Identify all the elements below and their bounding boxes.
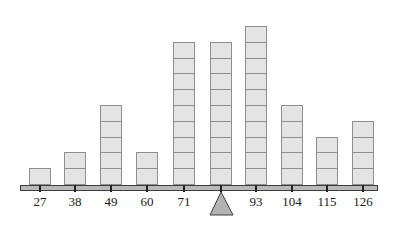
block xyxy=(245,26,267,43)
block-stack-71 xyxy=(173,42,195,185)
fulcrum-triangle-icon xyxy=(209,191,235,216)
block xyxy=(245,152,267,169)
block xyxy=(316,152,338,169)
block-stack-27 xyxy=(29,168,51,185)
tick-mark xyxy=(110,185,112,192)
block xyxy=(100,121,122,138)
block-stack-104 xyxy=(281,105,303,185)
block xyxy=(210,89,232,106)
block xyxy=(173,58,195,75)
block xyxy=(245,73,267,90)
tick-mark xyxy=(146,185,148,192)
tick-mark xyxy=(326,185,328,192)
block-stack-60 xyxy=(136,152,158,185)
block xyxy=(100,168,122,185)
block-stack-115 xyxy=(316,137,338,185)
block xyxy=(352,168,374,185)
block-stack-126 xyxy=(352,121,374,185)
block xyxy=(245,105,267,122)
tick-label: 60 xyxy=(127,194,167,210)
block xyxy=(29,168,51,185)
block xyxy=(245,121,267,138)
tick-mark xyxy=(183,185,185,192)
tick-mark xyxy=(39,185,41,192)
block xyxy=(352,152,374,169)
tick-mark xyxy=(74,185,76,192)
block xyxy=(136,168,158,185)
block xyxy=(100,137,122,154)
block xyxy=(281,168,303,185)
block xyxy=(64,168,86,185)
block xyxy=(281,152,303,169)
block xyxy=(210,58,232,75)
balance-dot-plot: 273849607193104115126 xyxy=(0,0,395,228)
block xyxy=(281,121,303,138)
tick-label: 115 xyxy=(307,194,347,210)
block xyxy=(245,42,267,59)
block xyxy=(210,121,232,138)
tick-label: 27 xyxy=(20,194,60,210)
block xyxy=(136,152,158,169)
block xyxy=(245,137,267,154)
block xyxy=(210,168,232,185)
block xyxy=(173,152,195,169)
block xyxy=(173,42,195,59)
block-stack-49 xyxy=(100,105,122,185)
block xyxy=(245,168,267,185)
block xyxy=(245,58,267,75)
block-stack-82 xyxy=(210,42,232,185)
tick-label: 49 xyxy=(91,194,131,210)
block xyxy=(64,152,86,169)
block xyxy=(210,105,232,122)
tick-mark xyxy=(255,185,257,192)
block xyxy=(245,89,267,106)
block-stack-93 xyxy=(245,26,267,185)
block xyxy=(210,42,232,59)
block xyxy=(173,137,195,154)
block xyxy=(281,137,303,154)
tick-label: 38 xyxy=(55,194,95,210)
tick-mark xyxy=(291,185,293,192)
block xyxy=(316,137,338,154)
block xyxy=(100,152,122,169)
block xyxy=(100,105,122,122)
block xyxy=(173,73,195,90)
block xyxy=(281,105,303,122)
block xyxy=(352,137,374,154)
block xyxy=(173,89,195,106)
tick-label: 104 xyxy=(272,194,312,210)
block xyxy=(173,105,195,122)
tick-label: 93 xyxy=(236,194,276,210)
block xyxy=(210,73,232,90)
tick-mark xyxy=(362,185,364,192)
block xyxy=(210,137,232,154)
block xyxy=(173,121,195,138)
block xyxy=(316,168,338,185)
block-stack-38 xyxy=(64,152,86,185)
tick-label: 71 xyxy=(164,194,204,210)
tick-label: 126 xyxy=(343,194,383,210)
block xyxy=(173,168,195,185)
block xyxy=(352,121,374,138)
block xyxy=(210,152,232,169)
